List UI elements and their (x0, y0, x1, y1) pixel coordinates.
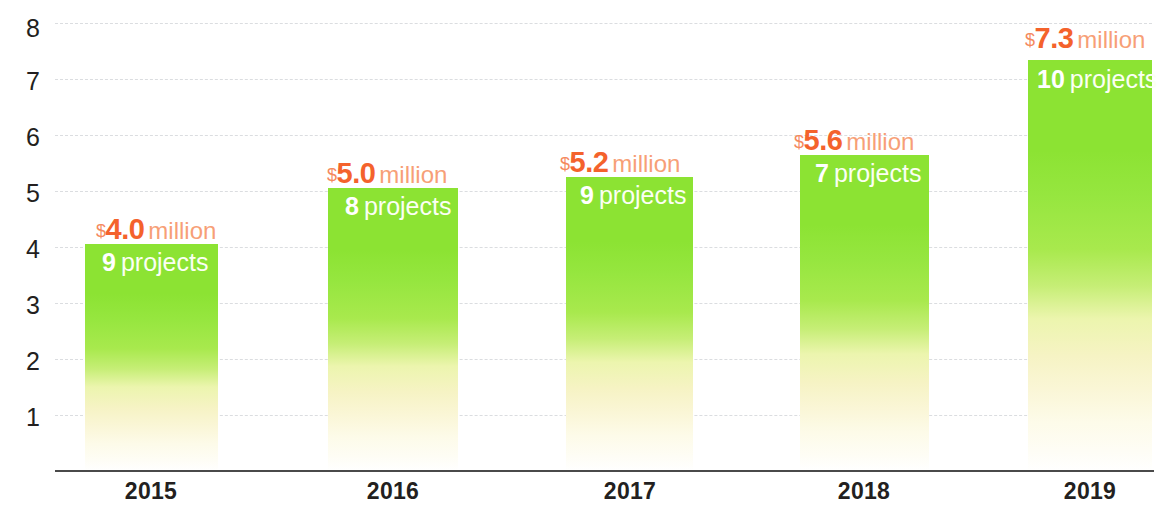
value-label-2017: $5.2million (560, 148, 680, 177)
projects-label-2019: 10projects (1037, 67, 1157, 92)
value-amount: 5.2 (570, 146, 609, 178)
projects-label-2017: 9projects (580, 183, 686, 208)
bar-2016[interactable] (328, 188, 458, 471)
bar-2019[interactable] (1028, 60, 1152, 471)
bars-layer: $4.0million 9projects $5.0million 8proje… (0, 0, 1174, 507)
currency-symbol: $ (96, 221, 106, 241)
x-axis-label-2017: 2017 (570, 480, 690, 503)
currency-symbol: $ (327, 165, 337, 185)
currency-symbol: $ (1025, 30, 1035, 50)
projects-count: 7 (815, 159, 829, 187)
value-label-2015: $4.0million (96, 215, 216, 244)
value-label-2018: $5.6million (794, 126, 914, 155)
x-axis-label-2015: 2015 (91, 480, 211, 503)
projects-count: 8 (345, 192, 359, 220)
projects-word: projects (364, 192, 452, 220)
value-unit: million (148, 217, 216, 244)
projects-count: 10 (1037, 65, 1065, 93)
currency-symbol: $ (560, 154, 570, 174)
projects-count: 9 (580, 181, 594, 209)
projects-word: projects (834, 159, 922, 187)
bar-2015[interactable] (85, 244, 218, 471)
value-unit: million (1077, 26, 1145, 53)
projects-word: projects (1070, 65, 1158, 93)
bar-2017[interactable] (566, 177, 693, 471)
bar-chart: 8 7 6 5 4 3 2 1 $4.0million 9projects $5… (0, 0, 1174, 507)
x-axis-baseline (55, 470, 1154, 472)
projects-word: projects (121, 248, 209, 276)
value-unit: million (612, 150, 680, 177)
value-unit: million (379, 161, 447, 188)
projects-word: projects (599, 181, 687, 209)
projects-label-2018: 7projects (815, 161, 921, 186)
projects-count: 9 (102, 248, 116, 276)
value-label-2019: $7.3million (1025, 24, 1145, 53)
currency-symbol: $ (794, 132, 804, 152)
projects-label-2015: 9projects (102, 250, 208, 275)
bar-2018[interactable] (800, 155, 929, 471)
value-amount: 4.0 (106, 213, 145, 245)
x-axis-label-2019: 2019 (1030, 480, 1150, 503)
x-axis-label-2018: 2018 (804, 480, 924, 503)
value-amount: 7.3 (1035, 22, 1074, 54)
projects-label-2016: 8projects (345, 194, 451, 219)
value-amount: 5.6 (804, 124, 843, 156)
value-label-2016: $5.0million (327, 159, 447, 188)
value-amount: 5.0 (337, 157, 376, 189)
x-axis-label-2016: 2016 (333, 480, 453, 503)
value-unit: million (846, 128, 914, 155)
